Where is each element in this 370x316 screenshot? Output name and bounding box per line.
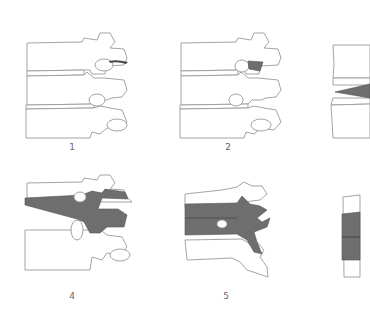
spine-diagram-panel-3 xyxy=(330,40,370,140)
lesion-wedge xyxy=(335,84,370,98)
spine-segment-illustration xyxy=(182,182,287,282)
panel-label-5: 5 xyxy=(216,291,236,301)
spine-diagram-panel-6 xyxy=(340,192,360,282)
spine-segment-illustration xyxy=(22,175,137,285)
spine-diagram-panel-2 xyxy=(176,30,291,140)
spine-segment-illustration xyxy=(22,30,137,140)
panel-label-1: 1 xyxy=(62,142,82,152)
lesion-wedge xyxy=(248,61,263,71)
spine-segment-illustration xyxy=(340,192,360,282)
panel-label-4: 4 xyxy=(62,291,82,301)
spine-diagram-panel-5 xyxy=(182,182,287,282)
spine-diagram-panel-4 xyxy=(22,175,137,285)
spine-segment-illustration xyxy=(330,40,370,140)
panel-label-2: 2 xyxy=(218,142,238,152)
lesion-body xyxy=(342,212,360,260)
spine-diagram-panel-1 xyxy=(22,30,137,140)
spine-segment-illustration xyxy=(176,30,291,140)
